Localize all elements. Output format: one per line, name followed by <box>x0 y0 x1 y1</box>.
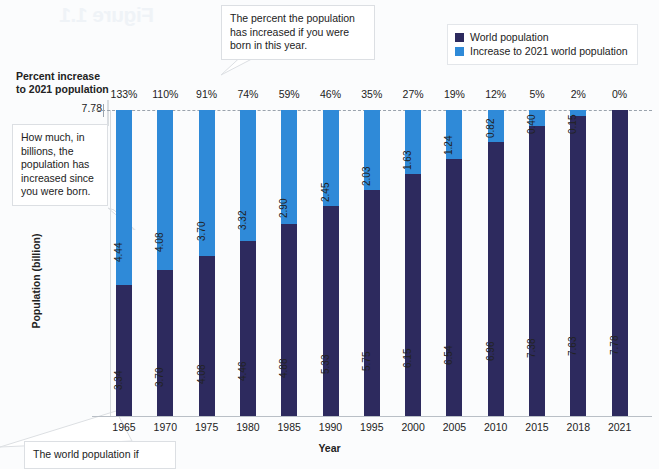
bar-segment-world-population-1995 <box>364 190 380 416</box>
percent-label-2010: 12% <box>475 88 517 100</box>
value-label-increase-2018: 0.15 <box>567 115 578 134</box>
value-label-world-population-1975: 4.08 <box>196 364 207 383</box>
value-label-increase-2010: 0.82 <box>485 119 496 138</box>
value-label-increase-1975: 3.70 <box>196 221 207 240</box>
bar-2018 <box>570 110 586 416</box>
value-label-world-population-1980: 4.46 <box>237 361 248 380</box>
percent-label-2005: 19% <box>433 88 475 100</box>
bar-2005 <box>446 110 462 416</box>
bar-segment-world-population-2005 <box>446 159 462 416</box>
value-label-world-population-2018: 7.63 <box>567 337 578 356</box>
percent-label-2000: 27% <box>392 88 434 100</box>
x-axis-label-2005: 2005 <box>433 421 475 433</box>
percent-label-1975: 91% <box>186 88 228 100</box>
bar-segment-world-population-2018 <box>570 116 586 416</box>
bar-segment-world-population-2021 <box>612 110 628 416</box>
percent-label-2015: 5% <box>516 88 558 100</box>
x-axis-label-2021: 2021 <box>599 421 641 433</box>
y-axis-tick <box>103 104 104 117</box>
percent-label-1985: 59% <box>268 88 310 100</box>
value-label-increase-1995: 2.03 <box>361 166 372 185</box>
bar-segment-world-population-1965 <box>116 285 132 416</box>
value-label-world-population-2005: 6.54 <box>443 345 454 364</box>
percent-label-2021: 0% <box>599 88 641 100</box>
value-label-world-population-2015: 7.38 <box>526 338 537 357</box>
percent-label-2018: 2% <box>557 88 599 100</box>
value-label-increase-1990: 2.45 <box>320 183 331 202</box>
percent-label-1995: 35% <box>351 88 393 100</box>
bar-segment-world-population-1975 <box>199 256 215 416</box>
bar-segment-world-population-1980 <box>240 241 256 416</box>
x-axis-label-2015: 2015 <box>516 421 558 433</box>
percent-label-1980: 74% <box>227 88 269 100</box>
value-label-increase-2005: 1.24 <box>443 135 454 154</box>
bar-2021 <box>612 110 628 416</box>
value-label-increase-1980: 3.32 <box>237 211 248 230</box>
bar-segment-world-population-1990 <box>323 206 339 416</box>
x-axis-label-1980: 1980 <box>227 421 269 433</box>
value-label-increase-2015: 0.40 <box>526 115 537 134</box>
x-axis-label-1965: 1965 <box>103 421 145 433</box>
x-axis-label-1975: 1975 <box>186 421 228 433</box>
bar-segment-world-population-1985 <box>281 224 297 416</box>
value-label-world-population-2021: 7.78 <box>609 335 620 354</box>
x-axis-label-2010: 2010 <box>475 421 517 433</box>
value-label-increase-1985: 2.90 <box>278 199 289 218</box>
percent-label-1990: 46% <box>310 88 352 100</box>
percent-label-1970: 110% <box>144 88 186 100</box>
value-label-world-population-2000: 6.15 <box>402 348 413 367</box>
bar-segment-world-population-2000 <box>405 174 421 416</box>
value-label-world-population-1965: 3.34 <box>113 370 124 389</box>
value-label-world-population-1970: 3.70 <box>154 367 165 386</box>
bar-segment-world-population-2015 <box>529 126 545 416</box>
value-label-increase-2000: 1.63 <box>402 151 413 170</box>
bar-segment-world-population-1970 <box>157 270 173 416</box>
x-axis-label-2000: 2000 <box>392 421 434 433</box>
y-axis-line <box>110 110 111 416</box>
x-axis-label-1990: 1990 <box>310 421 352 433</box>
percent-label-1965: 133% <box>103 88 145 100</box>
bar-segment-world-population-2010 <box>488 142 504 416</box>
value-label-increase-1965: 4.44 <box>113 242 124 261</box>
bar-2015 <box>529 110 545 416</box>
bar-2010 <box>488 110 504 416</box>
x-axis-label-1995: 1995 <box>351 421 393 433</box>
value-label-world-population-1990: 5.33 <box>320 355 331 374</box>
value-label-increase-1970: 4.08 <box>154 232 165 251</box>
value-label-world-population-1985: 4.88 <box>278 358 289 377</box>
x-axis-label-1985: 1985 <box>268 421 310 433</box>
x-axis-label-2018: 2018 <box>557 421 599 433</box>
value-label-world-population-2010: 6.96 <box>485 342 496 361</box>
value-label-world-population-1995: 5.75 <box>361 351 372 370</box>
x-axis-line <box>92 416 652 417</box>
x-axis-label-1970: 1970 <box>144 421 186 433</box>
